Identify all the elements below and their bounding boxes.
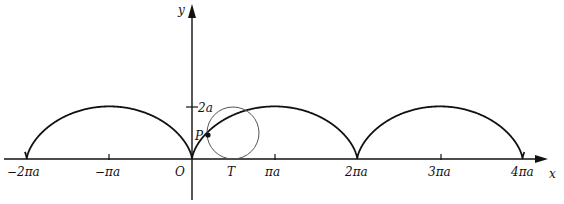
x-tick-label-neg-pi: −πa <box>95 165 120 179</box>
y-axis-arrow-icon <box>188 4 196 18</box>
x-axis-label: x <box>549 167 556 181</box>
y-axis-label: y <box>177 3 185 17</box>
x-tick-label-pi: πa <box>264 165 280 179</box>
x-tick-label-neg-2pi: −2πa <box>7 165 40 179</box>
x-tick-label-2pi: 2πa <box>344 165 368 179</box>
y-tick-label-2a: 2a <box>197 101 213 115</box>
origin-label: O <box>175 165 185 179</box>
x-axis-arrow-icon <box>535 155 548 163</box>
point-p-marker <box>205 132 210 137</box>
cycloid-curve <box>25 106 524 159</box>
x-tick-label-3pi: 3πa <box>428 165 451 179</box>
x-tick-label-4pi: 4πa <box>510 165 534 179</box>
tangent-point-t-label: T <box>227 165 236 179</box>
point-p-label: P <box>194 129 204 143</box>
cycloid-diagram: y x O 2a P T −2πa −πa πa 2πa 3πa 4πa <box>0 0 564 204</box>
